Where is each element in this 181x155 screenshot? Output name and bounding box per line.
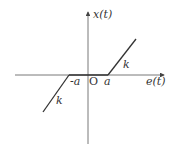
dead-zone-diagram: x(t) e(t) O -a a k k bbox=[0, 0, 181, 155]
x-axis-label: e(t) bbox=[146, 75, 166, 88]
slope-label-right: k bbox=[123, 58, 130, 71]
y-axis-label: x(t) bbox=[93, 8, 112, 21]
tick-positive-a: a bbox=[104, 75, 111, 88]
origin-label: O bbox=[89, 75, 98, 88]
tick-negative-a: -a bbox=[70, 75, 80, 88]
slope-label-left: k bbox=[56, 94, 63, 107]
right-slope-line bbox=[108, 39, 136, 75]
